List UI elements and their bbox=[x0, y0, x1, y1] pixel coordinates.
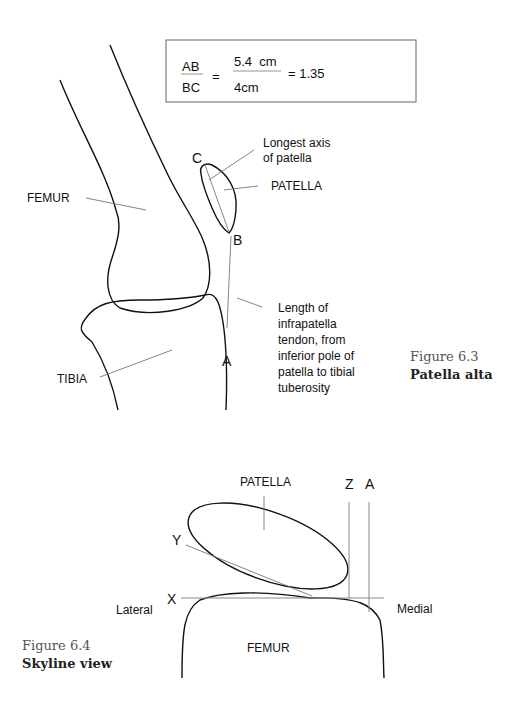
figure-6-4-number: Figure 6.4 bbox=[22, 638, 91, 653]
point-c-label: C bbox=[192, 150, 202, 166]
point-y-label: Y bbox=[172, 532, 182, 548]
tendon-label-line1: Length of bbox=[278, 301, 329, 315]
line-y bbox=[186, 545, 312, 596]
numerator-value: 5.4 cm bbox=[234, 54, 277, 69]
femur-condyle-outline bbox=[182, 593, 384, 678]
patella-label-skyline: PATELLA bbox=[240, 475, 291, 489]
tendon-label-line4: inferior pole of bbox=[278, 349, 355, 363]
point-z-label: Z bbox=[345, 476, 354, 492]
infrapatellar-tendon-line bbox=[227, 236, 231, 328]
equals-sign: = bbox=[212, 69, 220, 84]
tibia-label: TIBIA bbox=[57, 372, 87, 386]
figure-6-3-title: Patella alta bbox=[410, 367, 493, 382]
figure-6-4-skyline-view: PATELLA FEMUR Lateral Medial X Y Z A Fig… bbox=[22, 475, 432, 678]
figure-6-3-number: Figure 6.3 bbox=[410, 349, 479, 364]
tibia-outline bbox=[81, 294, 226, 410]
tendon-label-line3: tendon, from bbox=[278, 333, 345, 347]
diagram-canvas: AB BC = 5.4 cm 4cm = 1.35 FEMUR TIBIA PA… bbox=[0, 0, 508, 704]
tendon-label-line2: infrapatella bbox=[278, 317, 337, 331]
point-b-label: B bbox=[233, 232, 242, 248]
point-x-label: X bbox=[167, 591, 177, 607]
tendon-label-line5: patella to tibial bbox=[278, 365, 355, 379]
figure-6-3-patella-alta: AB BC = 5.4 cm 4cm = 1.35 FEMUR TIBIA PA… bbox=[27, 40, 493, 410]
ratio-result: = 1.35 bbox=[288, 66, 325, 81]
lateral-label: Lateral bbox=[116, 603, 153, 617]
figure-6-4-title: Skyline view bbox=[22, 656, 113, 671]
numerator-ab: AB bbox=[182, 59, 199, 74]
patella-ellipse bbox=[177, 485, 358, 606]
ratio-equation-box: AB BC = 5.4 cm 4cm = 1.35 bbox=[166, 40, 416, 102]
patella-outline bbox=[201, 164, 237, 233]
patella-leader bbox=[224, 186, 258, 190]
point-a-label: A bbox=[222, 353, 232, 369]
femur-label-skyline: FEMUR bbox=[247, 641, 290, 655]
denominator-bc: BC bbox=[182, 80, 200, 95]
tendon-leader bbox=[237, 298, 262, 307]
longest-axis-label-line2: of patella bbox=[263, 151, 312, 165]
patella-label: PATELLA bbox=[271, 179, 322, 193]
tibia-leader bbox=[100, 350, 172, 377]
femur-label: FEMUR bbox=[27, 191, 70, 205]
longest-axis-leader bbox=[209, 150, 254, 180]
denominator-value: 4cm bbox=[234, 80, 259, 95]
medial-label: Medial bbox=[397, 602, 432, 616]
longest-axis-label-line1: Longest axis bbox=[263, 136, 330, 150]
point-a-label-skyline: A bbox=[365, 476, 375, 492]
tendon-label-line6: tuberosity bbox=[278, 381, 330, 395]
